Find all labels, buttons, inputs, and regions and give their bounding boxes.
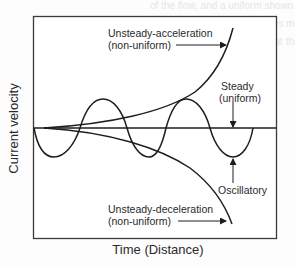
deceleration-sublabel: (non-uniform) [108,215,171,227]
y-axis-label: Current velocity [6,74,21,184]
acceleration-sublabel: (non-uniform) [108,39,171,51]
deceleration-label: Unsteady-deceleration [108,203,213,215]
oscillatory-label: Oscillatory [218,184,267,196]
x-axis-label: Time (Distance) [83,242,233,257]
steady-label: Steady [221,80,254,92]
steady-sublabel: (uniform) [219,92,261,104]
acceleration-label: Unsteady-acceleration [108,27,212,39]
diagram-canvas: of the flow, and a uniform shown in Figu… [0,0,295,266]
